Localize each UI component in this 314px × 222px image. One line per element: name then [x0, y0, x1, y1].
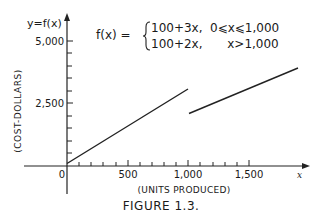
x-tick-label: 500	[118, 169, 137, 180]
x-axis-label: (UNITS PRODUCED)	[137, 185, 230, 195]
formula-piece-1-condition: 0⩽x⩽1,000	[210, 21, 279, 35]
series-line-1	[67, 89, 188, 164]
series-line-2	[189, 68, 298, 114]
y-tick-label: 5,000	[35, 36, 64, 47]
y-ticks	[67, 41, 73, 153]
y-axis-arrow-icon	[64, 13, 70, 21]
x-ticks	[79, 160, 249, 166]
chart: 5,000 2,500 0 500 1,000 1,500 y=f(x) x (…	[0, 0, 314, 222]
brace-icon	[143, 22, 150, 50]
formula-piece-1-expr: 100+3x,	[151, 21, 203, 35]
formula: f(x) = 100+3x, 0⩽x⩽1,000 100+2x, x>1,000	[96, 21, 279, 51]
x-tick-label: 0	[59, 169, 65, 180]
formula-piece-2-condition: x>1,000	[227, 37, 279, 51]
formula-lhs: f(x) =	[96, 28, 131, 42]
y-tick-label: 2,500	[35, 98, 64, 109]
x-tick-label: 1,000	[174, 169, 203, 180]
x-tick-label: 1,500	[235, 169, 264, 180]
x-axis-name: x	[297, 170, 302, 180]
figure-caption: FIGURE 1.3.	[123, 199, 200, 213]
y-axis-name: y=f(x)	[27, 17, 62, 30]
x-axis-arrow-icon	[302, 163, 310, 169]
formula-piece-2-expr: 100+2x,	[151, 37, 203, 51]
y-axis-label: (COST-DOLLARS)	[13, 69, 23, 152]
